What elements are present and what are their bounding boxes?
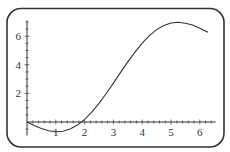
x-tick-label: 3: [111, 126, 117, 138]
x-tick-label: 4: [139, 126, 145, 138]
x-tick-label: 6: [197, 126, 203, 138]
y-tick-label: 2: [16, 87, 22, 99]
x-tick-label: 2: [82, 126, 88, 138]
x-tick-label: 5: [168, 126, 174, 138]
y-tick-label: 6: [16, 30, 22, 42]
chart: 123456246: [0, 0, 230, 152]
y-tick-label: 4: [16, 59, 22, 71]
